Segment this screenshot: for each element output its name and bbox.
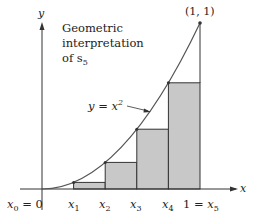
point-label: (1, 1) (185, 5, 215, 18)
x2-label: x2 (99, 197, 111, 213)
rect-1 (74, 182, 106, 189)
x4-label: x4 (162, 197, 174, 213)
x-axis-label: x (240, 182, 247, 195)
curve-label: y = x2 (87, 98, 123, 113)
rect-2 (105, 162, 137, 189)
rect-4 (168, 83, 200, 189)
riemann-sum-diagram: y x Geometric interpretation of s5 (1, 1… (0, 0, 254, 221)
title-line-3: of s5 (62, 51, 88, 67)
title-line-2: interpretation (62, 36, 144, 50)
rect-3 (137, 129, 169, 189)
x-axis-arrow-icon (230, 187, 238, 192)
pointer-arrow-icon (144, 109, 152, 113)
y-axis-label: y (37, 7, 45, 20)
x1-label: x1 (68, 197, 80, 213)
title-line-1: Geometric (62, 21, 123, 35)
x5-label: 1 = x5 (183, 197, 219, 213)
x0-label: x0 = 0 (7, 197, 43, 213)
y-axis-arrow-icon (40, 22, 45, 30)
x3-label: x3 (130, 197, 142, 213)
